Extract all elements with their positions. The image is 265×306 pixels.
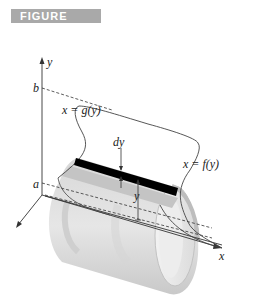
g-curve-label: x = g(y) xyxy=(61,103,101,117)
x-axis-label: x xyxy=(218,249,225,263)
dy-arrowhead-icon xyxy=(119,166,123,171)
f-curve-label: x = f(y) xyxy=(182,157,219,171)
y-axis-label: y xyxy=(46,55,53,69)
y-axis-arrow-icon xyxy=(40,57,45,64)
z-axis-arrow-icon xyxy=(16,221,22,228)
z-axis xyxy=(18,195,42,225)
a-label: a xyxy=(33,177,39,191)
y-height-label: y xyxy=(133,189,140,203)
dy-label: dy xyxy=(113,135,125,149)
shell-method-diagram: y b a x x = g(y) x = f(y) dy y xyxy=(0,0,265,306)
b-label: b xyxy=(33,81,39,95)
